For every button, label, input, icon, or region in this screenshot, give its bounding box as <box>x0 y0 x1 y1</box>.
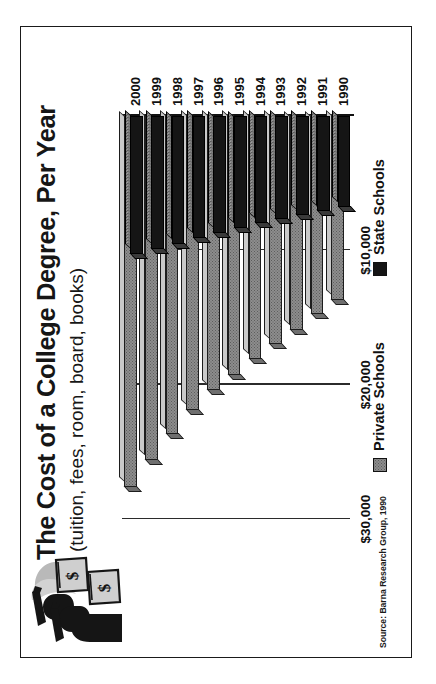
year-label-1998: 1998 <box>169 77 184 106</box>
rotated-chart-canvas: $ $ The Cost of a College Degree, Per Ye… <box>22 28 410 656</box>
bar-row <box>309 70 329 616</box>
bar-state-schools-1998 <box>172 116 185 244</box>
legend-swatch <box>373 458 387 472</box>
bar-side <box>166 434 184 440</box>
bar-face <box>234 116 247 228</box>
bar-face <box>275 116 288 219</box>
legend-label: State Schools <box>371 159 387 255</box>
bar-side <box>269 344 287 350</box>
chart-title: The Cost of a College Degree, Per Year <box>32 60 61 560</box>
year-label-1993: 1993 <box>273 77 288 106</box>
bar-state-schools-1997 <box>193 116 206 238</box>
bar-state-schools-1993 <box>275 116 288 219</box>
year-label-1990: 1990 <box>335 77 350 106</box>
legend-label: Private Schools <box>371 342 387 451</box>
year-label-1994: 1994 <box>252 77 267 106</box>
bar-face <box>172 116 185 244</box>
source-note: Source: Barna Research Group, 1990 <box>378 496 388 648</box>
bar-state-schools-1991 <box>317 116 330 211</box>
year-label-1997: 1997 <box>190 77 205 106</box>
bar-state-schools-1994 <box>255 116 268 224</box>
graduates-with-money-bags-icon: $ $ <box>30 554 124 650</box>
bar-state-schools-2000 <box>130 116 143 254</box>
bar-row <box>288 70 308 616</box>
bar-state-schools-1996 <box>213 116 226 233</box>
svg-text:$: $ <box>95 583 114 592</box>
bar-side <box>331 300 349 306</box>
year-label-1996: 1996 <box>211 77 226 106</box>
bar-row <box>184 70 204 616</box>
chart-header: $ $ The Cost of a College Degree, Per Ye… <box>26 28 122 656</box>
bar-side <box>228 375 246 381</box>
chart-legend: Private SchoolsState Schools <box>370 72 396 472</box>
value-tick-label: $30,000 <box>358 495 373 544</box>
bar-side <box>186 410 204 416</box>
bar-side <box>311 313 329 319</box>
bar-state-schools-1995 <box>234 116 247 228</box>
bar-row <box>267 70 287 616</box>
bar-state-schools-1999 <box>151 116 164 249</box>
year-label-1992: 1992 <box>294 77 309 106</box>
bar-face <box>296 116 309 215</box>
year-label-2000: 2000 <box>128 77 143 106</box>
bar-row <box>329 70 349 616</box>
chart-page: $ $ The Cost of a College Degree, Per Ye… <box>0 0 436 684</box>
year-label-1991: 1991 <box>314 77 329 106</box>
chart-subtitle: (tuition, fees, room, board, books) <box>66 52 88 552</box>
bar-row <box>246 70 266 616</box>
bar-side <box>249 359 267 365</box>
bar-face <box>130 116 143 254</box>
bar-side <box>124 486 142 492</box>
svg-text:$: $ <box>63 571 82 580</box>
year-label-1999: 1999 <box>149 77 164 106</box>
plot-area: $10,000$20,000$30,0001990199119921993199… <box>122 70 358 616</box>
bar-face <box>255 116 268 224</box>
bar-face <box>317 116 330 211</box>
bar-side <box>290 329 308 335</box>
legend-swatch <box>373 262 387 276</box>
bar-side <box>145 459 163 465</box>
bar-face <box>151 116 164 249</box>
bar-face <box>193 116 206 238</box>
year-label-1995: 1995 <box>232 77 247 106</box>
bar-state-schools-1990 <box>338 116 351 207</box>
chart-frame: $ $ The Cost of a College Degree, Per Ye… <box>20 26 412 658</box>
bar-face <box>213 116 226 233</box>
bar-side <box>207 390 225 396</box>
bar-state-schools-1992 <box>296 116 309 215</box>
bar-face <box>338 116 351 207</box>
